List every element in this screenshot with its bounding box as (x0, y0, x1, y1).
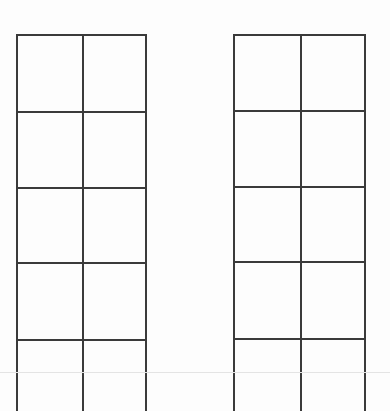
grid-row-line (16, 339, 147, 341)
grid-column-line (233, 34, 235, 411)
grid-row-line (16, 187, 147, 189)
grid-column-line (82, 34, 84, 411)
grid-column-line (145, 34, 147, 411)
grid-column-line (300, 34, 302, 411)
grid-row-line (16, 111, 147, 113)
grid-row-line (233, 110, 366, 112)
grid-column-line (364, 34, 366, 411)
grid-row-line (233, 338, 366, 340)
grid-row-line (233, 261, 366, 263)
grid-column-line (16, 34, 18, 411)
grid-row-line (233, 34, 366, 36)
grid-row-line (16, 262, 147, 264)
faint-scan-line (0, 372, 390, 373)
grid-row-line (233, 186, 366, 188)
grid-row-line (16, 34, 147, 36)
